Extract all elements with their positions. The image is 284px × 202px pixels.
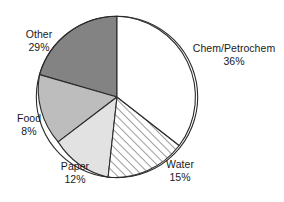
pie-label-chem-petrochem-name: Chem/Petrochem <box>186 42 282 55</box>
pie-label-food-name: Food <box>2 112 56 125</box>
pie-label-chem-petrochem-value: 36% <box>186 55 282 68</box>
pie-label-paper-value: 12% <box>44 173 106 186</box>
pie-label-food-value: 8% <box>2 125 56 138</box>
pie-chart-figure: Other 29% Chem/Petrochem 36% Food 8% Pap… <box>0 0 284 202</box>
pie-label-water: Water 15% <box>152 158 208 184</box>
pie-label-water-name: Water <box>152 158 208 171</box>
pie-label-chem-petrochem: Chem/Petrochem 36% <box>186 42 282 68</box>
pie-label-paper: Paper 12% <box>44 160 106 186</box>
pie-label-other-value: 29% <box>6 41 72 54</box>
pie-label-other-name: Other <box>6 28 72 41</box>
pie-label-food: Food 8% <box>2 112 56 138</box>
pie-label-paper-name: Paper <box>44 160 106 173</box>
pie-label-other: Other 29% <box>6 28 72 54</box>
pie-label-water-value: 15% <box>152 171 208 184</box>
